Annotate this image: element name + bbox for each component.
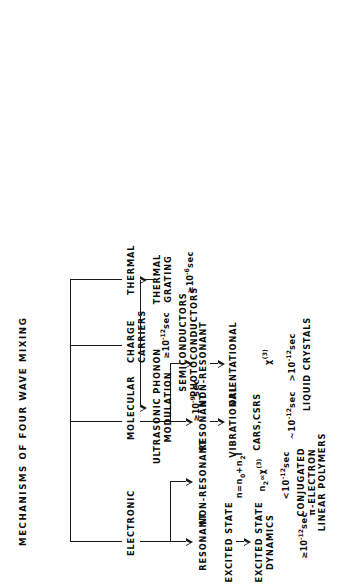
timescale-unit: sec <box>191 379 201 396</box>
formula-sub-0: 0 <box>238 474 245 478</box>
ultrasonic-connector-bar <box>140 280 141 408</box>
node-thermal-grating: THERMALGRATING <box>152 242 173 316</box>
drop-molecular <box>70 421 122 422</box>
timescale-prefix: ≥10 <box>185 275 195 293</box>
timescale-prefix: ≥10 <box>191 403 201 421</box>
timescale-thermal-grating: ≥10-6sec <box>174 242 206 316</box>
node-ultrasonic-phonon-modulation: ULTRASONIC PHONONMODULATION <box>152 350 173 464</box>
node-orientational: ORIENTATIONAL <box>228 318 239 410</box>
node-charge-carriers-label: CHARGECARRIERS <box>126 310 147 363</box>
formula-n2-prop-chi: ∝χ <box>257 469 267 481</box>
timescale-prefix: ≥10 <box>299 540 309 558</box>
page-title: MECHANISMS OF FOUR WAVE MIXING <box>18 317 29 546</box>
electronic-split-bar <box>170 482 171 542</box>
electronic-nonresonant-drop <box>170 481 186 482</box>
formula-part-a: n=n <box>234 478 244 498</box>
formula-chi: χ <box>263 359 273 365</box>
timescale-exponent: -12 <box>159 329 166 340</box>
electronic-stem <box>140 541 170 542</box>
timescale-exponent: -6 <box>183 268 190 275</box>
materials-molecular-nonresonant: LIQUID CRYSTALS <box>302 312 313 416</box>
node-thermal: THERMAL <box>126 245 137 295</box>
drop-charge-carriers <box>70 345 122 346</box>
drop-electronic <box>70 541 122 542</box>
timescale-unit: sec <box>185 251 195 268</box>
excited-state-stem <box>236 541 244 542</box>
formula-sub-2: 2 <box>238 456 245 460</box>
timescale-prefix: <10 <box>281 479 291 499</box>
formula-n2-n: n <box>257 485 267 491</box>
timescale-exponent: -12 <box>285 350 292 361</box>
timescale-exponent: -12 <box>285 408 292 419</box>
timescale-prefix: >10 <box>287 361 297 381</box>
timescale-unit: sec <box>287 333 297 350</box>
formula-chi-sup: (3) <box>261 349 268 359</box>
root-trunk <box>70 280 71 542</box>
timescale-exponent: -9 <box>189 396 196 403</box>
timescale-ultrasonic: ≥10-9sec <box>180 350 212 464</box>
node-electronic: ELECTRONIC <box>126 490 137 556</box>
timescale-exponent: -12 <box>279 468 286 479</box>
formula-n2-sub: 2 <box>261 481 268 485</box>
drop-thermal <box>70 279 122 280</box>
timescale-prefix: ~10 <box>287 419 297 439</box>
electronic-resonant-drop <box>170 541 186 542</box>
node-molecular: MOLECULAR <box>126 375 137 440</box>
